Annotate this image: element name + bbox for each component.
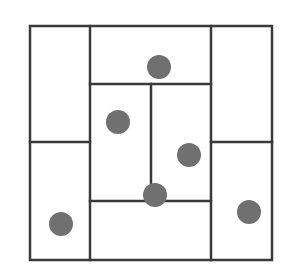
dots-group	[49, 55, 261, 236]
dot-top-center-icon	[147, 55, 171, 79]
dot-center-right-icon	[177, 143, 201, 167]
dot-center-junction-icon	[143, 183, 167, 207]
dot-bottom-left-icon	[49, 212, 73, 236]
diagram-canvas	[0, 0, 284, 278]
grid-diagram	[0, 0, 284, 278]
dot-bottom-right-icon	[237, 200, 261, 224]
dot-center-left-icon	[106, 110, 130, 134]
